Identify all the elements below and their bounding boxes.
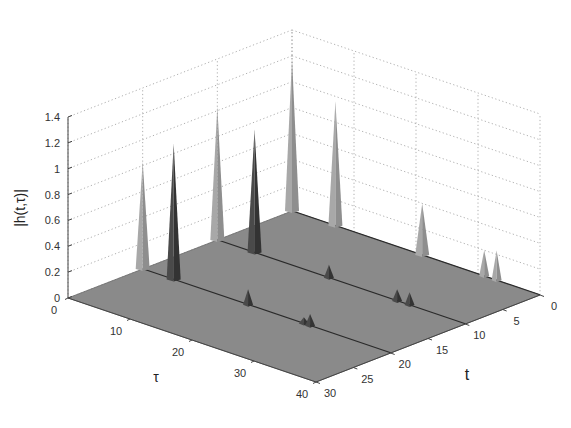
- svg-text:0.4: 0.4: [45, 240, 60, 252]
- svg-text:0: 0: [51, 304, 57, 316]
- svg-text:1.2: 1.2: [45, 137, 60, 149]
- z-axis-label: |h(t,τ)|: [12, 189, 28, 227]
- y-axis-label: t: [465, 366, 470, 383]
- svg-text:40: 40: [296, 388, 308, 400]
- svg-text:30: 30: [234, 367, 246, 379]
- svg-text:25: 25: [361, 373, 373, 385]
- svg-text:1: 1: [54, 163, 60, 175]
- svg-text:0: 0: [551, 300, 557, 312]
- svg-text:15: 15: [436, 344, 448, 356]
- surface-plot: 00.20.40.60.811.21.401020304005101520253…: [0, 0, 571, 428]
- svg-text:0.2: 0.2: [45, 266, 60, 278]
- svg-text:20: 20: [172, 346, 184, 358]
- svg-text:20: 20: [399, 358, 411, 370]
- svg-text:0.6: 0.6: [45, 214, 60, 226]
- svg-text:0: 0: [54, 292, 60, 304]
- svg-text:1.4: 1.4: [45, 111, 60, 123]
- svg-text:10: 10: [473, 329, 485, 341]
- svg-text:10: 10: [110, 325, 122, 337]
- x-axis-label: τ: [153, 369, 159, 385]
- svg-text:5: 5: [514, 315, 520, 327]
- svg-text:0.8: 0.8: [45, 189, 60, 201]
- svg-text:30: 30: [324, 387, 336, 399]
